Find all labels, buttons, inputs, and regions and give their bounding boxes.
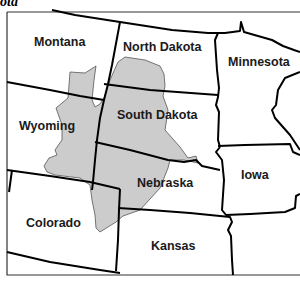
state-label-iowa: Iowa (241, 168, 270, 182)
state-label-south-dakota: South Dakota (117, 108, 199, 122)
state-label-nebraska: Nebraska (137, 176, 194, 190)
state-label-montana: Montana (34, 35, 86, 49)
state-label-colorado: Colorado (26, 216, 81, 230)
regional-map: Montana North Dakota Minnesota Wyoming S… (0, 0, 300, 282)
state-label-minnesota: Minnesota (228, 55, 291, 69)
shaded-region (44, 57, 198, 232)
state-label-wyoming: Wyoming (19, 119, 75, 133)
state-label-kansas: Kansas (151, 239, 196, 253)
state-label-north-dakota: North Dakota (123, 40, 203, 54)
